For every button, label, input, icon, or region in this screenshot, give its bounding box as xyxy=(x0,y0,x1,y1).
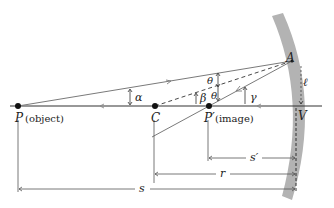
point-C xyxy=(152,103,158,109)
label-r: r xyxy=(220,167,226,180)
point-P-prime xyxy=(206,103,212,109)
label-theta-upper: θ xyxy=(207,75,213,86)
mirror-diagram: P (object) C P′ (image) V A α β γ θ θ ℓ … xyxy=(0,0,334,208)
label-alpha: α xyxy=(135,91,143,104)
label-beta: β xyxy=(199,92,206,105)
label-A: A xyxy=(285,51,295,65)
label-s-prime: s′ xyxy=(250,151,259,164)
label-theta-lower: θ xyxy=(211,90,217,101)
label-C: C xyxy=(151,111,160,125)
label-P: P xyxy=(14,111,24,125)
label-P-prime-note: (image) xyxy=(215,113,254,124)
point-P xyxy=(15,103,21,109)
normal-line xyxy=(155,61,292,106)
label-s: s xyxy=(139,182,145,195)
label-gamma: γ xyxy=(250,91,257,104)
label-P-prime: P′ xyxy=(203,111,215,125)
label-P-note: (object) xyxy=(25,113,64,124)
label-arc-length: ℓ xyxy=(303,76,308,89)
label-V: V xyxy=(298,109,308,123)
